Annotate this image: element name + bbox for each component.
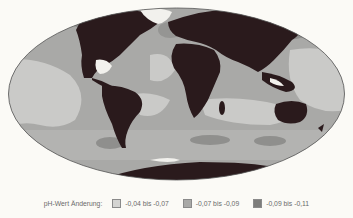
- legend-item-high: -0,09 bis -0,11: [253, 199, 309, 208]
- legend-swatch-high: [253, 199, 262, 208]
- legend-item-mid: -0,07 bis -0,09: [183, 199, 239, 208]
- legend-swatch-mid: [183, 199, 192, 208]
- legend-label-high: -0,09 bis -0,11: [266, 200, 309, 207]
- legend: pH-Wert Änderung: -0,04 bis -0,07 -0,07 …: [0, 195, 353, 211]
- legend-label-low: -0,04 bis -0,07: [125, 200, 168, 207]
- ocean-zone-high: [190, 135, 230, 145]
- legend-title: pH-Wert Änderung:: [44, 200, 102, 207]
- world-map: [0, 0, 353, 186]
- land-madagascar: [219, 101, 225, 115]
- ocean-zone-high: [254, 136, 286, 146]
- legend-item-low: -0,04 bis -0,07: [112, 199, 168, 208]
- land-australia: [274, 101, 307, 124]
- legend-swatch-low: [112, 199, 121, 208]
- legend-label-mid: -0,07 bis -0,09: [196, 200, 239, 207]
- southern-ocean-band: [0, 130, 353, 160]
